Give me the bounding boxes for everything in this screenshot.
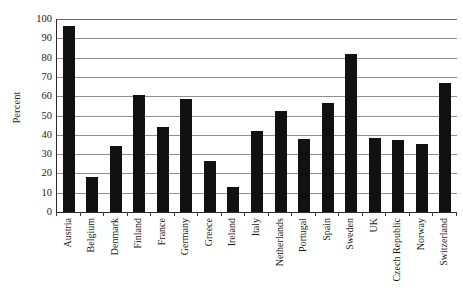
- bar: [392, 140, 404, 212]
- x-axis-tick-mark: [338, 212, 339, 216]
- x-axis-tick-label: Germany: [180, 218, 190, 255]
- bar: [369, 138, 381, 212]
- x-axis-tick-label: Netherlands: [275, 218, 285, 266]
- bar-slot: [386, 19, 410, 212]
- x-axis-tick-label-slot: Czech Republic: [385, 218, 409, 298]
- x-axis-tick-label: Austria: [63, 218, 73, 247]
- bar: [251, 131, 263, 212]
- y-axis-tick-labels: 0102030405060708090100: [26, 12, 52, 220]
- bar: [133, 95, 145, 212]
- x-axis-tick-mark: [291, 212, 292, 216]
- x-axis-tick-label-slot: France: [150, 218, 174, 298]
- bar-slot: [433, 19, 457, 212]
- x-axis-tick-label: UK: [369, 218, 379, 232]
- x-axis-tick-label-slot: UK: [362, 218, 386, 298]
- bar-slot: [128, 19, 152, 212]
- plot-area: [56, 19, 457, 213]
- y-axis-tick-label: 20: [26, 168, 52, 179]
- bar-slot: [316, 19, 340, 212]
- x-axis-tick-label: Norway: [416, 218, 426, 250]
- x-axis-tick-mark: [80, 212, 81, 216]
- bar-slot: [339, 19, 363, 212]
- bar-slot: [175, 19, 199, 212]
- x-axis-tick-label: Sweden: [345, 218, 355, 250]
- x-axis-tick-label-slot: Netherlands: [268, 218, 292, 298]
- bar-slot: [292, 19, 316, 212]
- x-axis-tick-label-slot: Sweden: [338, 218, 362, 298]
- x-axis-tick-mark: [103, 212, 104, 216]
- x-axis-tick-label-slot: Austria: [56, 218, 80, 298]
- x-axis-tick-label-slot: Spain: [315, 218, 339, 298]
- bar-slot: [151, 19, 175, 212]
- x-axis-tick-mark: [150, 212, 151, 216]
- x-axis-tick-label: Ireland: [227, 218, 237, 246]
- bar: [63, 26, 75, 212]
- x-axis-tick-label-slot: Belgium: [80, 218, 104, 298]
- y-axis-tick-label: 70: [26, 72, 52, 83]
- bar: [275, 111, 287, 212]
- x-axis-tick-label: Spain: [322, 218, 332, 241]
- x-axis-tick-mark: [197, 212, 198, 216]
- bar: [86, 177, 98, 212]
- bar-slot: [104, 19, 128, 212]
- x-axis-tick-label: Greece: [204, 218, 214, 246]
- bar-slot: [245, 19, 269, 212]
- bar-slot: [57, 19, 81, 212]
- x-axis-tick-mark: [268, 212, 269, 216]
- x-axis-tick-mark: [432, 212, 433, 216]
- x-axis-tick-label-slot: Portugal: [291, 218, 315, 298]
- x-axis-tick-label: Portugal: [298, 218, 308, 252]
- x-axis-tick-label-slot: Norway: [409, 218, 433, 298]
- bar: [204, 161, 216, 212]
- x-axis-tick-mark: [174, 212, 175, 216]
- bar-series: [57, 19, 457, 212]
- bar-slot: [269, 19, 293, 212]
- x-axis-tick-label-slot: Italy: [244, 218, 268, 298]
- x-axis-tick-mark: [409, 212, 410, 216]
- y-axis-tick-label: 60: [26, 91, 52, 102]
- y-axis-tick-label: 80: [26, 52, 52, 63]
- bar: [227, 187, 239, 212]
- bar: [110, 146, 122, 212]
- y-axis-tick-label: 100: [26, 14, 52, 25]
- bar: [180, 99, 192, 212]
- x-axis-tick-labels: AustriaBelgiumDenmarkFinlandFranceGerman…: [56, 218, 456, 298]
- x-axis-tick-label: Belgium: [86, 218, 96, 252]
- x-axis-tick-mark: [385, 212, 386, 216]
- y-axis-tick-label: 10: [26, 187, 52, 198]
- x-axis-tick-label: Czech Republic: [392, 218, 402, 282]
- x-axis-tick-label: Italy: [251, 218, 261, 236]
- bar: [416, 144, 428, 213]
- bar-chart: Percent 0102030405060708090100 AustriaBe…: [0, 0, 463, 299]
- bar: [157, 127, 169, 212]
- x-axis-tick-mark: [315, 212, 316, 216]
- x-axis-tick-label-slot: Denmark: [103, 218, 127, 298]
- x-axis-tick-mark: [244, 212, 245, 216]
- y-axis-tick-label: 30: [26, 149, 52, 160]
- bar: [345, 54, 357, 212]
- bar: [298, 139, 310, 212]
- bar-slot: [363, 19, 387, 212]
- x-axis-tick-label-slot: Ireland: [221, 218, 245, 298]
- bar: [322, 103, 334, 212]
- y-axis-tick-label: 40: [26, 130, 52, 141]
- y-axis-tick-label: 0: [26, 207, 52, 218]
- x-axis-tick-mark: [456, 212, 457, 216]
- x-axis-tick-label-slot: Germany: [174, 218, 198, 298]
- bar-slot: [410, 19, 434, 212]
- x-axis-tick-label: Switzerland: [439, 218, 449, 266]
- x-axis-tick-label-slot: Greece: [197, 218, 221, 298]
- y-axis-tick-label: 50: [26, 110, 52, 121]
- x-axis-tick-label: Finland: [133, 218, 143, 249]
- x-axis-tick-label-slot: Finland: [127, 218, 151, 298]
- x-axis-tick-mark: [127, 212, 128, 216]
- x-axis-tick-mark: [221, 212, 222, 216]
- x-axis-tick-marks: [56, 212, 456, 217]
- x-axis-tick-label: Denmark: [110, 218, 120, 255]
- bar-slot: [222, 19, 246, 212]
- bar: [439, 83, 451, 212]
- x-axis-tick-label-slot: Switzerland: [432, 218, 456, 298]
- x-axis-tick-label: France: [157, 218, 167, 245]
- y-axis-title-label: Percent: [11, 91, 22, 123]
- x-axis-tick-mark: [56, 212, 57, 216]
